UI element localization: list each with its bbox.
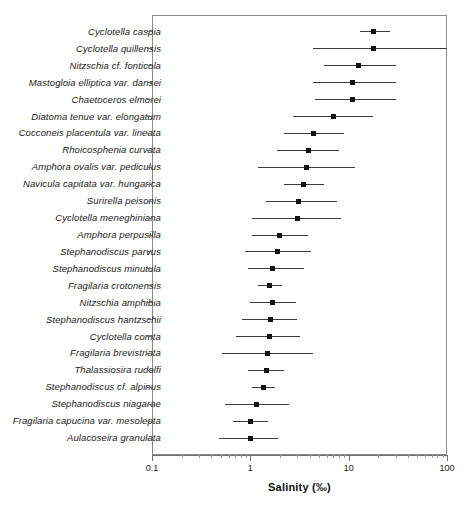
x-axis-minor-tick xyxy=(241,455,242,458)
y-axis-tick xyxy=(147,319,152,320)
species-label: Diatoma tenue var. elongatum xyxy=(31,109,161,125)
species-label: Stephanodiscus parvus xyxy=(60,244,161,260)
y-axis-tick xyxy=(147,251,152,252)
y-axis-tick xyxy=(147,167,152,168)
optimum-point xyxy=(267,283,272,288)
x-axis-tick-label: 1 xyxy=(248,463,253,473)
species-label: Fragilaria capucina var. mesolepta xyxy=(13,413,161,429)
x-axis-minor-tick xyxy=(319,455,320,458)
x-axis-minor-tick xyxy=(199,455,200,458)
optimum-point xyxy=(331,114,336,119)
y-axis-tick xyxy=(147,48,152,49)
x-axis-minor-tick xyxy=(425,455,426,458)
x-axis-major-tick xyxy=(250,455,251,461)
optimum-point xyxy=(295,216,300,221)
optimum-point xyxy=(267,334,272,339)
x-axis-tick-label: 10 xyxy=(344,463,354,473)
x-axis-major-tick xyxy=(447,455,448,461)
x-axis-minor-tick xyxy=(246,455,247,458)
tolerance-range-bar xyxy=(248,268,304,269)
x-axis-minor-tick xyxy=(344,455,345,458)
y-axis-tick xyxy=(147,99,152,100)
x-axis-minor-tick xyxy=(378,455,379,458)
tolerance-range-bar xyxy=(266,201,337,202)
optimum-point xyxy=(356,63,361,68)
optimum-point xyxy=(275,249,280,254)
y-axis-tick xyxy=(147,438,152,439)
optimum-point xyxy=(306,148,311,153)
x-axis-minor-tick xyxy=(432,455,433,458)
x-axis-minor-tick xyxy=(297,455,298,458)
x-axis-tick-label: 0.1 xyxy=(146,463,159,473)
optimum-point xyxy=(264,368,269,373)
x-axis-tick-label: 100 xyxy=(439,463,454,473)
salinity-optima-figure: Cyclotella caspiaCyclotella quillensisNi… xyxy=(0,0,473,505)
y-axis-tick xyxy=(147,421,152,422)
optimum-point xyxy=(254,402,259,407)
optimum-point xyxy=(350,97,355,102)
species-label: Stephanodiscus minutula xyxy=(53,261,161,277)
y-axis-tick xyxy=(147,370,152,371)
x-axis-minor-tick xyxy=(229,455,230,458)
y-axis-tick xyxy=(147,302,152,303)
tolerance-range-bar xyxy=(313,48,447,49)
x-axis-minor-tick xyxy=(182,455,183,458)
species-label: Stephanodiscus hantzschii xyxy=(46,312,161,328)
y-axis-tick xyxy=(147,65,152,66)
y-axis-tick xyxy=(147,31,152,32)
optimum-point xyxy=(248,436,253,441)
y-axis-tick xyxy=(147,82,152,83)
x-axis-minor-tick xyxy=(310,455,311,458)
x-axis-minor-tick xyxy=(443,455,444,458)
y-axis-tick xyxy=(147,201,152,202)
species-label: Cocconeis placentula var. lineata xyxy=(19,125,161,141)
optimum-point xyxy=(301,182,306,187)
y-axis-tick xyxy=(147,404,152,405)
x-axis-minor-tick xyxy=(211,455,212,458)
x-axis-minor-tick xyxy=(280,455,281,458)
species-label: Mastogloia elliptica var. dansei xyxy=(29,75,161,91)
optimum-point xyxy=(304,165,309,170)
x-axis-major-tick xyxy=(152,455,153,461)
y-axis-tick xyxy=(147,184,152,185)
species-label: Stephanodiscus niagarae xyxy=(51,396,161,412)
x-axis-minor-tick xyxy=(333,455,334,458)
x-axis-minor-tick xyxy=(221,455,222,458)
optimum-point xyxy=(277,233,282,238)
x-axis-line xyxy=(152,455,447,456)
optimum-point xyxy=(261,385,266,390)
y-axis-tick xyxy=(147,387,152,388)
x-axis-minor-tick xyxy=(417,455,418,458)
y-axis-tick xyxy=(147,285,152,286)
species-label: Amphora ovalis var. pediculus xyxy=(32,159,161,175)
x-axis-minor-tick xyxy=(408,455,409,458)
x-axis-minor-tick xyxy=(396,455,397,458)
x-axis-title: Salinity (‰) xyxy=(152,481,447,493)
optimum-point xyxy=(270,300,275,305)
optimum-point xyxy=(350,80,355,85)
optimum-point xyxy=(268,317,273,322)
optimum-point xyxy=(296,199,301,204)
species-label: Cyclotella meneghiniana xyxy=(55,210,161,226)
optimum-point xyxy=(371,46,376,51)
optimum-point xyxy=(265,351,270,356)
y-axis-tick xyxy=(147,235,152,236)
y-axis-tick xyxy=(147,218,152,219)
x-axis-major-tick xyxy=(349,455,350,461)
y-axis-tick xyxy=(147,150,152,151)
y-axis-tick xyxy=(147,133,152,134)
optimum-point xyxy=(248,419,253,424)
x-axis-minor-tick xyxy=(339,455,340,458)
species-label: Navicula capitata var. hungarica xyxy=(23,176,161,192)
x-axis-minor-tick xyxy=(327,455,328,458)
x-axis-minor-tick xyxy=(437,455,438,458)
y-axis-tick xyxy=(147,353,152,354)
y-axis-tick xyxy=(147,116,152,117)
plot-rows-layer: Cyclotella caspiaCyclotella quillensisNi… xyxy=(0,0,473,505)
x-axis-minor-tick xyxy=(235,455,236,458)
y-axis-tick xyxy=(147,268,152,269)
optimum-point xyxy=(270,266,275,271)
optimum-point xyxy=(311,131,316,136)
species-label: Stephanodiscus cf. alpinus xyxy=(45,379,161,395)
y-axis-tick xyxy=(147,336,152,337)
